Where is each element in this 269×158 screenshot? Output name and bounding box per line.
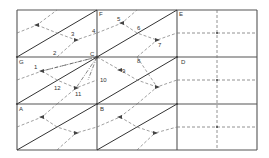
point-label-6: 6 xyxy=(137,25,141,31)
point-label-1: 1 xyxy=(34,64,38,70)
flow-path xyxy=(137,133,155,150)
grid-diagram: F E G C D A B 1 2 3 4 5 6 7 8 9 10 11 12 xyxy=(0,0,269,158)
diagonal xyxy=(17,10,97,57)
point-label-2: 2 xyxy=(53,50,57,56)
node-g xyxy=(16,56,18,58)
node xyxy=(176,103,178,105)
point-label-5: 5 xyxy=(117,16,121,22)
arrow-icon xyxy=(39,69,44,73)
node-d xyxy=(176,56,178,58)
point-label-11: 11 xyxy=(75,91,82,97)
point-label-8: 8 xyxy=(137,58,141,64)
node-a xyxy=(16,103,18,105)
node xyxy=(216,79,218,81)
point-label-10: 10 xyxy=(100,77,107,83)
label-c: C xyxy=(90,51,95,57)
arrow-icon xyxy=(74,38,79,42)
arrow-icon xyxy=(153,131,158,135)
node-b xyxy=(96,103,98,105)
point-label-12: 12 xyxy=(54,85,61,91)
flow-path xyxy=(120,117,177,133)
label-a: A xyxy=(19,106,23,112)
arrow-icon xyxy=(74,131,79,135)
label-b: B xyxy=(100,106,104,112)
label-e: E xyxy=(179,11,183,17)
label-g: G xyxy=(19,59,24,65)
arrow-icon xyxy=(117,115,122,119)
diagonal xyxy=(97,57,177,104)
node-c xyxy=(95,55,98,58)
node xyxy=(216,32,218,34)
flow-path xyxy=(137,87,157,104)
diagonal xyxy=(97,10,177,57)
label-d: D xyxy=(181,59,186,65)
arrow-icon xyxy=(34,23,39,27)
flow-path xyxy=(57,40,76,57)
arrow-icon xyxy=(39,115,44,119)
diagonal xyxy=(17,57,97,104)
flow-path xyxy=(17,10,57,33)
corner-labels: F E G C D A B xyxy=(19,11,186,112)
point-label-7: 7 xyxy=(158,42,162,48)
point-label-3: 3 xyxy=(71,31,75,37)
flow-path xyxy=(137,40,157,57)
label-f: F xyxy=(99,11,103,17)
arrow-icon xyxy=(74,86,79,90)
arrow-icon xyxy=(155,85,160,89)
diagonal xyxy=(17,104,97,150)
flow-path xyxy=(17,57,97,80)
point-label-4: 4 xyxy=(92,28,96,34)
node xyxy=(216,126,218,128)
flow-path xyxy=(57,133,76,150)
diagonal xyxy=(97,104,177,150)
